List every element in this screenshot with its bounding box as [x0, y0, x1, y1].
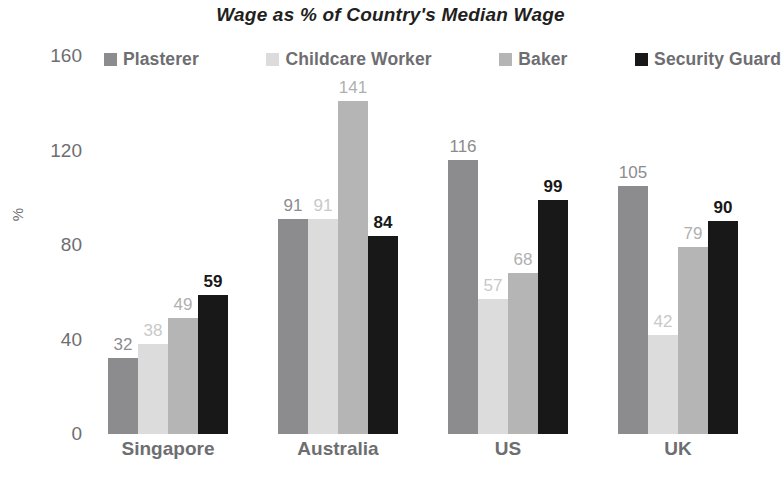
bar[interactable]: 57	[478, 56, 508, 434]
bar-value-label: 59	[204, 273, 223, 290]
x-axis-category-label: Singapore	[108, 438, 228, 460]
bar[interactable]: 84	[368, 56, 398, 434]
bar-value-label: 105	[619, 164, 647, 181]
y-axis-tick-label: 40	[12, 329, 82, 351]
bar-value-label: 32	[114, 336, 133, 353]
bar-value-label: 68	[514, 251, 533, 268]
bar[interactable]: 32	[108, 56, 138, 434]
bar-value-label: 99	[544, 178, 563, 195]
bar-value-label: 84	[374, 214, 393, 231]
bar-value-label: 141	[339, 79, 367, 96]
bar[interactable]: 79	[678, 56, 708, 434]
bar[interactable]: 42	[648, 56, 678, 434]
bar-rect	[618, 186, 648, 434]
bar-group-bars: 116576899	[448, 56, 568, 434]
bar-rect	[478, 299, 508, 434]
bar[interactable]: 90	[708, 56, 738, 434]
bar-rect	[648, 335, 678, 434]
bar-value-label: 91	[314, 197, 333, 214]
bar-rect	[168, 318, 198, 434]
bar-rect	[138, 344, 168, 434]
bar[interactable]: 99	[538, 56, 568, 434]
bar-value-label: 49	[174, 296, 193, 313]
bar-rect	[448, 160, 478, 434]
bar-value-label: 42	[654, 313, 673, 330]
bar[interactable]: 105	[618, 56, 648, 434]
bar-group: 919114184Australia	[278, 56, 398, 434]
x-axis-category-label: Australia	[278, 438, 398, 460]
bar[interactable]: 68	[508, 56, 538, 434]
bar-group: 116576899US	[448, 56, 568, 434]
bar-group-bars: 32384959	[108, 56, 228, 434]
bar-rect	[198, 295, 228, 434]
y-axis-tick-label: 120	[12, 140, 82, 162]
bar-value-label: 91	[284, 197, 303, 214]
bar[interactable]: 91	[308, 56, 338, 434]
bar[interactable]: 49	[168, 56, 198, 434]
bar[interactable]: 141	[338, 56, 368, 434]
x-axis-category-label: US	[448, 438, 568, 460]
bar-group: 105427990UK	[618, 56, 738, 434]
bar-rect	[308, 219, 338, 434]
bar[interactable]: 116	[448, 56, 478, 434]
y-axis-tick-label: 80	[12, 234, 82, 256]
bar[interactable]: 59	[198, 56, 228, 434]
bar-rect	[278, 219, 308, 434]
y-axis-tick-label: 160	[12, 45, 82, 67]
bar-rect	[368, 236, 398, 434]
bar[interactable]: 91	[278, 56, 308, 434]
bar-group-bars: 919114184	[278, 56, 398, 434]
bar-rect	[678, 247, 708, 434]
bar-rect	[108, 358, 138, 434]
bar-value-label: 57	[484, 277, 503, 294]
bar-value-label: 90	[714, 199, 733, 216]
bar-group-bars: 105427990	[618, 56, 738, 434]
bar[interactable]: 38	[138, 56, 168, 434]
bar-rect	[538, 200, 568, 434]
bar-rect	[708, 221, 738, 434]
bar-rect	[338, 101, 368, 434]
bar-group: 32384959Singapore	[108, 56, 228, 434]
bar-value-label: 79	[684, 225, 703, 242]
bar-rect	[508, 273, 538, 434]
bar-chart: Wage as % of Country's Median Wage Plast…	[0, 0, 781, 477]
plot-area: 32384959Singapore919114184Australia11657…	[96, 56, 781, 434]
y-axis-title: %	[9, 200, 26, 230]
y-axis-tick-label: 0	[12, 423, 82, 445]
bar-value-label: 116	[449, 138, 476, 155]
chart-title: Wage as % of Country's Median Wage	[0, 4, 781, 26]
bar-value-label: 38	[144, 322, 163, 339]
x-axis-category-label: UK	[618, 438, 738, 460]
